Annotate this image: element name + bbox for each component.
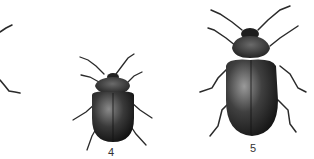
beetle-specimen-5 [200,6,306,136]
specimen-label-4: 4 [108,146,114,158]
beetle-specimen-4 [73,54,152,150]
beetle-partial-left [0,25,20,93]
beetle-illustration-plate: 4 5 [0,0,314,159]
beetle-figure: 4 5 [0,0,314,159]
specimen-label-5: 5 [250,142,256,154]
